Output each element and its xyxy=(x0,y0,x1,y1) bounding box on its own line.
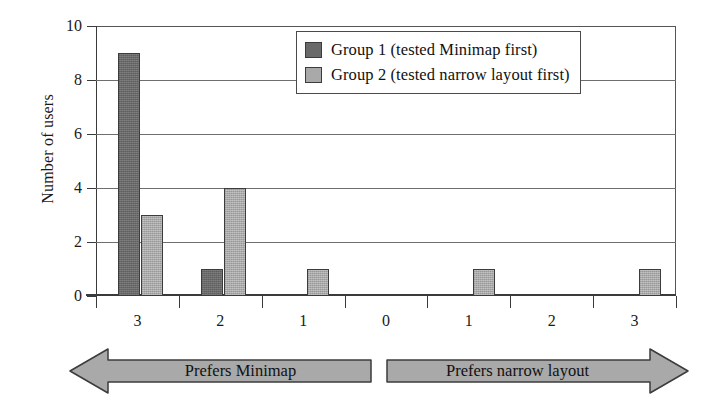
y-tick-mark xyxy=(87,80,96,81)
y-tick-mark xyxy=(87,242,96,243)
legend-label-group-1: Group 1 (tested Minimap first) xyxy=(331,40,537,60)
chart-figure: Number of users 0246810 3210123 Group 1 … xyxy=(0,0,705,416)
x-tick-mark xyxy=(676,296,677,308)
x-tick-mark xyxy=(179,296,180,308)
legend-item: Group 1 (tested Minimap first) xyxy=(305,37,570,62)
bar xyxy=(118,53,140,296)
bar xyxy=(639,269,661,296)
x-tick-mark xyxy=(96,296,97,308)
x-tick-label: 0 xyxy=(382,312,390,330)
legend-swatch-group-1 xyxy=(305,42,322,58)
x-tick-label: 3 xyxy=(133,312,141,330)
y-axis-title: Number of users xyxy=(39,39,57,259)
legend-item: Group 2 (tested narrow layout first) xyxy=(305,62,570,87)
y-tick-mark xyxy=(87,296,96,297)
x-tick-mark xyxy=(262,296,263,308)
y-tick-label: 8 xyxy=(74,71,82,89)
annotation-label-right: Prefers narrow layout xyxy=(391,345,644,397)
bar xyxy=(224,188,246,296)
y-tick-label: 4 xyxy=(74,179,82,197)
x-tick-mark xyxy=(345,296,346,308)
x-tick-label: 2 xyxy=(548,312,556,330)
bar xyxy=(473,269,495,296)
bar xyxy=(201,269,223,296)
x-tick-mark xyxy=(510,296,511,308)
x-tick-mark xyxy=(593,296,594,308)
y-tick-mark xyxy=(87,134,96,135)
y-tick-label: 10 xyxy=(66,17,82,35)
legend-label-group-2: Group 2 (tested narrow layout first) xyxy=(331,65,570,85)
legend: Group 1 (tested Minimap first) Group 2 (… xyxy=(296,31,581,94)
y-tick-label: 6 xyxy=(74,125,82,143)
y-tick-label: 0 xyxy=(74,287,82,305)
x-tick-mark xyxy=(427,296,428,308)
x-tick-label: 3 xyxy=(631,312,639,330)
annotation-arrow-prefers-minimap: Prefers Minimap xyxy=(68,345,373,397)
y-tick-mark xyxy=(87,188,96,189)
bar xyxy=(141,215,163,296)
x-tick-label: 2 xyxy=(216,312,224,330)
annotation-arrow-prefers-narrow-layout: Prefers narrow layout xyxy=(385,345,690,397)
y-tick-label: 2 xyxy=(74,233,82,251)
y-tick-mark xyxy=(87,26,96,27)
annotation-label-left: Prefers Minimap xyxy=(114,345,367,397)
bar xyxy=(307,269,329,296)
x-tick-label: 1 xyxy=(465,312,473,330)
legend-swatch-group-2 xyxy=(305,67,322,83)
x-tick-label: 1 xyxy=(299,312,307,330)
